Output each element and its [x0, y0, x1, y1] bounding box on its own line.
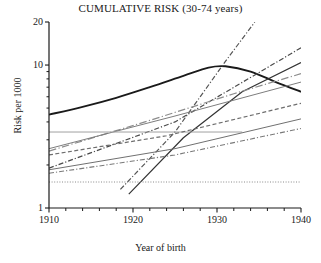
series-steep-dashdot-upper [120, 22, 254, 189]
axes-layer [45, 22, 301, 213]
x-tick-label: 1910 [39, 214, 59, 225]
x-tick-label: 1920 [123, 214, 143, 225]
series-dashdot-lowest-rising [49, 128, 301, 173]
series-layer [49, 22, 301, 194]
cumulative-risk-chart: CUMULATIVE RISK (30-74 years) 1102019101… [0, 0, 321, 263]
series-grey-solid-rising [49, 82, 301, 149]
series-solid-lower-rising [49, 119, 301, 170]
x-axis-label: Year of birth [0, 242, 321, 253]
x-tick-label: 1930 [207, 214, 227, 225]
y-tick-label: 1 [38, 202, 43, 213]
series-thick-peak-curve [49, 66, 301, 115]
tick-labels-layer: 110201910192019301940 [33, 16, 311, 225]
plot-area: 110201910192019301940 [0, 0, 321, 263]
x-tick-label: 1940 [291, 214, 311, 225]
series-rising-dashdot-right [49, 48, 301, 168]
y-axis-label: Risk per 1000 [12, 51, 23, 161]
y-tick-label: 20 [33, 16, 43, 27]
y-tick-label: 10 [33, 59, 43, 70]
